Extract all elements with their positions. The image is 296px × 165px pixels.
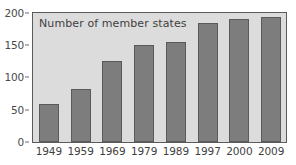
bars-layer [33, 13, 286, 142]
x-axis: 19491959196919791989199720002009 [33, 146, 287, 162]
bar-1979 [134, 45, 154, 143]
x-tick-label-1979: 1979 [131, 146, 157, 157]
bar-2000 [229, 19, 249, 142]
bar-1949 [39, 104, 59, 142]
y-tick-mark-200 [25, 13, 29, 14]
x-tick-label-2000: 2000 [226, 146, 252, 157]
y-tick-label-50: 50 [11, 105, 24, 116]
y-tick-label-100: 100 [5, 72, 24, 83]
y-tick-label-150: 150 [5, 40, 24, 51]
y-tick-mark-0 [25, 142, 29, 143]
x-tick-label-1997: 1997 [194, 146, 220, 157]
y-tick-label-0: 0 [18, 137, 24, 148]
x-tick-label-1969: 1969 [99, 146, 125, 157]
bar-chart: 200 150 100 50 0 Number of member states… [0, 0, 296, 165]
x-tick-label-2009: 2009 [258, 146, 284, 157]
y-tick-label-200: 200 [5, 8, 24, 19]
x-tick-label-1949: 1949 [36, 146, 62, 157]
x-tick-label-1959: 1959 [67, 146, 93, 157]
plot-area: Number of member states [33, 12, 287, 142]
bar-1969 [102, 61, 122, 142]
bar-1959 [71, 89, 91, 142]
x-tick-label-1989: 1989 [163, 146, 189, 157]
y-axis: 200 150 100 50 0 [0, 0, 29, 165]
bar-1989 [166, 42, 186, 142]
y-tick-mark-50 [25, 110, 29, 111]
bar-1997 [198, 23, 218, 142]
y-tick-mark-150 [25, 45, 29, 46]
x-axis-line [32, 142, 287, 143]
bar-2009 [261, 17, 281, 142]
y-tick-mark-100 [25, 77, 29, 78]
